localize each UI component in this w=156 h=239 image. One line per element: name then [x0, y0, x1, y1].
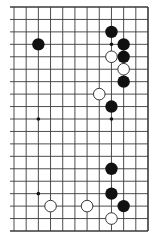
- white-stone: [106, 51, 118, 63]
- star-point-dot: [110, 43, 114, 47]
- white-stone: [45, 200, 57, 212]
- black-stone: [117, 200, 129, 212]
- star-point-dot: [37, 192, 41, 196]
- black-stone: [117, 75, 129, 87]
- star-point-dot: [110, 117, 114, 121]
- white-stone: [93, 88, 105, 100]
- white-stone: [81, 200, 93, 212]
- white-stone: [106, 213, 118, 225]
- black-stone: [105, 100, 117, 112]
- go-board-diagram: [0, 0, 156, 239]
- black-stone: [105, 163, 117, 175]
- white-stone: [118, 63, 130, 75]
- black-stone: [105, 26, 117, 38]
- stones-layer: [32, 26, 130, 225]
- black-stone: [117, 51, 129, 63]
- star-point-dot: [37, 117, 41, 121]
- black-stone: [105, 187, 117, 199]
- black-stone: [117, 38, 129, 50]
- black-stone: [32, 38, 44, 50]
